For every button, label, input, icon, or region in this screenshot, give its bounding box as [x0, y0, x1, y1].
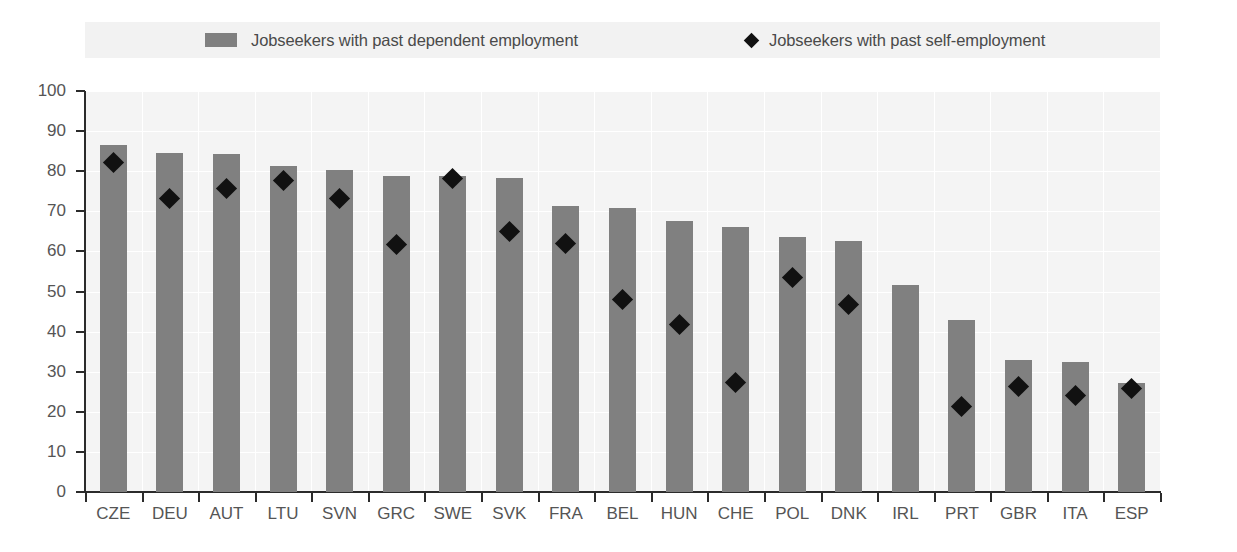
bar-CHE — [722, 227, 749, 492]
x-axis-tick — [538, 493, 540, 502]
x-axis-tick-label: BEL — [594, 505, 651, 522]
x-axis-tick-label: SVN — [311, 505, 368, 522]
gridline-vertical — [877, 91, 878, 492]
legend-item-dependent-employment: Jobseekers with past dependent employmen… — [205, 31, 578, 50]
gridline-vertical — [934, 91, 935, 492]
x-axis-tick — [934, 493, 936, 502]
y-axis-tick — [76, 130, 85, 132]
y-axis-tick-label: 0 — [14, 483, 66, 500]
x-axis-tick — [255, 493, 257, 502]
x-axis-tick — [85, 493, 87, 502]
chart-container: Jobseekers with past dependent employmen… — [0, 0, 1237, 552]
gridline-vertical — [707, 91, 708, 492]
x-axis-tick-label: PRT — [934, 505, 991, 522]
y-axis-tick-label: 50 — [14, 283, 66, 300]
x-axis-tick — [707, 493, 709, 502]
y-axis-tick-label: 90 — [14, 122, 66, 139]
x-axis-tick-label: GRC — [368, 505, 425, 522]
gridline-vertical — [764, 91, 765, 492]
y-axis-tick-label: 60 — [14, 242, 66, 259]
x-axis-tick-label: LTU — [255, 505, 312, 522]
x-axis-tick-label: IRL — [877, 505, 934, 522]
bar-SWE — [439, 176, 466, 492]
legend-label-dependent-employment: Jobseekers with past dependent employmen… — [251, 31, 578, 50]
x-axis-tick-label: AUT — [198, 505, 255, 522]
bar-BEL — [609, 208, 636, 492]
bar-AUT — [213, 154, 240, 492]
y-axis-tick — [76, 291, 85, 293]
y-axis-tick — [76, 250, 85, 252]
y-axis-tick — [76, 371, 85, 373]
gridline-vertical — [1047, 91, 1048, 492]
y-axis-tick-label: 80 — [14, 162, 66, 179]
x-axis-tick — [821, 493, 823, 502]
x-axis-tick-label: SWE — [424, 505, 481, 522]
legend-diamond-marker-icon — [744, 32, 760, 48]
x-axis-tick-label: HUN — [651, 505, 708, 522]
y-axis-tick — [76, 451, 85, 453]
x-axis-tick — [1103, 493, 1105, 502]
x-axis-tick — [877, 493, 879, 502]
y-axis-tick — [76, 210, 85, 212]
y-axis-tick — [76, 331, 85, 333]
x-axis-tick — [651, 493, 653, 502]
chart-legend: Jobseekers with past dependent employmen… — [85, 22, 1160, 58]
bar-SVN — [326, 170, 353, 492]
bar-IRL — [892, 285, 919, 492]
y-axis-tick-label: 40 — [14, 323, 66, 340]
gridline-vertical — [481, 91, 482, 492]
y-axis-tick-label: 10 — [14, 443, 66, 460]
y-axis-tick — [76, 491, 85, 493]
gridline-horizontal — [85, 91, 1160, 92]
legend-label-self-employment: Jobseekers with past self-employment — [769, 31, 1045, 50]
gridline-vertical — [538, 91, 539, 492]
gridline-vertical — [821, 91, 822, 492]
gridline-horizontal — [85, 171, 1160, 172]
gridline-vertical — [594, 91, 595, 492]
x-axis-tick — [481, 493, 483, 502]
bar-ITA — [1062, 362, 1089, 492]
y-axis-tick-label: 70 — [14, 202, 66, 219]
bar-CZE — [100, 145, 127, 492]
y-axis-tick — [76, 90, 85, 92]
gridline-vertical — [1103, 91, 1104, 492]
x-axis-tick — [594, 493, 596, 502]
x-axis-tick-label: FRA — [538, 505, 595, 522]
legend-item-self-employment: Jobseekers with past self-employment — [743, 31, 1045, 50]
x-axis-tick-label: POL — [764, 505, 821, 522]
gridline-vertical — [311, 91, 312, 492]
gridline-vertical — [198, 91, 199, 492]
gridline-vertical — [990, 91, 991, 492]
bar-GRC — [383, 176, 410, 492]
x-axis-tick — [990, 493, 992, 502]
gridline-vertical — [368, 91, 369, 492]
x-axis-tick — [198, 493, 200, 502]
y-axis-tick — [76, 411, 85, 413]
x-axis-tick-label: ITA — [1047, 505, 1104, 522]
y-axis-tick-label: 30 — [14, 363, 66, 380]
y-axis-tick-label: 20 — [14, 403, 66, 420]
y-axis-tick — [76, 170, 85, 172]
x-axis-tick — [764, 493, 766, 502]
x-axis-tick — [1160, 493, 1162, 502]
legend-square-swatch-icon — [205, 33, 237, 47]
gridline-vertical — [255, 91, 256, 492]
bar-ESP — [1118, 383, 1145, 492]
gridline-vertical — [424, 91, 425, 492]
x-axis-tick-label: ESP — [1103, 505, 1160, 522]
x-axis-tick-label: SVK — [481, 505, 538, 522]
x-axis-tick — [1047, 493, 1049, 502]
x-axis-tick — [311, 493, 313, 502]
bar-LTU — [270, 166, 297, 492]
gridline-vertical — [142, 91, 143, 492]
x-axis-tick-label: GBR — [990, 505, 1047, 522]
x-axis-tick-label: CHE — [707, 505, 764, 522]
x-axis-tick — [368, 493, 370, 502]
x-axis-tick — [142, 493, 144, 502]
y-axis-tick-label: 100 — [14, 82, 66, 99]
gridline-horizontal — [85, 131, 1160, 132]
x-axis-tick-label: CZE — [85, 505, 142, 522]
bar-DNK — [835, 241, 862, 492]
gridline-vertical — [651, 91, 652, 492]
x-axis-tick — [424, 493, 426, 502]
